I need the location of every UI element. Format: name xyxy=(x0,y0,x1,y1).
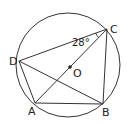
geometry-figure: C D A B O 28° xyxy=(0,0,127,124)
label-o: O xyxy=(73,68,82,79)
center-dot-o xyxy=(68,65,72,69)
segment-bc xyxy=(103,29,107,104)
label-b: B xyxy=(102,107,110,118)
segment-db xyxy=(19,61,103,104)
label-a: A xyxy=(28,106,36,117)
segment-cd xyxy=(19,29,107,61)
label-d: D xyxy=(9,56,17,67)
circle-o xyxy=(16,13,120,117)
segment-ab xyxy=(35,103,103,104)
angle-label: 28° xyxy=(72,38,90,48)
angle-arc-c xyxy=(96,33,99,38)
label-c: C xyxy=(110,24,118,35)
